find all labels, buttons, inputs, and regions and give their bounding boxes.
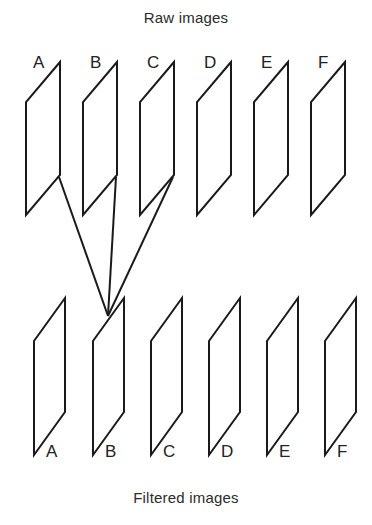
label-raw-d: D <box>204 54 216 71</box>
label-filtered-b: B <box>105 443 116 460</box>
panel-raw-d[interactable] <box>197 62 231 215</box>
bottom-row-parallelograms <box>34 298 356 455</box>
connector-lines <box>59 177 173 316</box>
label-raw-f: F <box>318 54 328 71</box>
panel-raw-b[interactable] <box>83 62 117 215</box>
panel-filtered-d[interactable] <box>209 298 240 455</box>
figure-canvas: Raw images ABCDEF ABCDEF Filtered images <box>0 0 372 525</box>
panel-raw-f[interactable] <box>311 62 345 215</box>
label-raw-b: B <box>90 54 101 71</box>
panel-raw-c[interactable] <box>140 62 174 215</box>
label-raw-a: A <box>33 54 44 71</box>
label-filtered-c: C <box>163 443 175 460</box>
label-raw-e: E <box>261 54 272 71</box>
connector-from-b <box>108 177 116 316</box>
panel-filtered-b[interactable] <box>93 298 124 455</box>
panel-raw-e[interactable] <box>254 62 288 215</box>
top-row-parallelograms <box>26 62 345 215</box>
panel-filtered-a[interactable] <box>34 298 65 455</box>
label-filtered-f: F <box>337 443 347 460</box>
panel-raw-a[interactable] <box>26 62 60 215</box>
panel-filtered-e[interactable] <box>267 298 298 455</box>
bottom-caption: Filtered images <box>0 489 372 506</box>
panel-filtered-f[interactable] <box>325 298 356 455</box>
label-filtered-e: E <box>279 443 290 460</box>
label-filtered-a: A <box>46 443 57 460</box>
panel-filtered-c[interactable] <box>151 298 182 455</box>
label-raw-c: C <box>147 54 159 71</box>
label-filtered-d: D <box>221 443 233 460</box>
